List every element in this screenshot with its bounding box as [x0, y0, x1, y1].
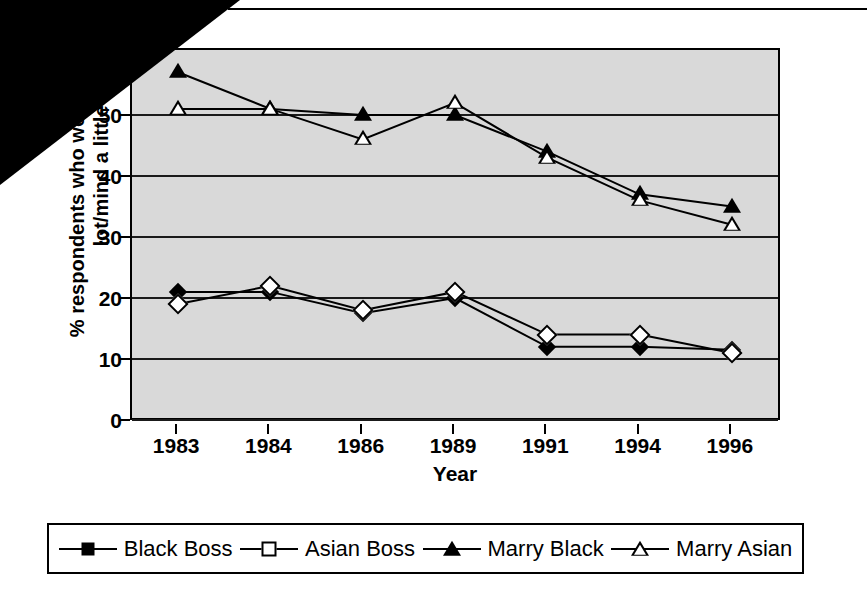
- legend-item-asian-boss[interactable]: Asian Boss: [240, 536, 415, 562]
- y-tick-mark-10: [119, 358, 130, 360]
- legend-item-marry-black[interactable]: Marry Black: [423, 536, 604, 562]
- filled-diamond-icon: [81, 542, 94, 555]
- gridline-0: [132, 419, 778, 421]
- data-point-hollow-triangle-icon-1991: [538, 148, 556, 163]
- data-point-hollow-triangle-icon-1994: [631, 191, 649, 206]
- data-point-hollow-triangle-icon-1989: [446, 93, 464, 108]
- x-tick-mark-1984: [267, 424, 269, 434]
- hollow-diamond-icon: [262, 541, 277, 556]
- x-tick-label-1983: 1983: [153, 434, 200, 458]
- chart-legend: Black BossAsian BossMarry BlackMarry Asi…: [47, 523, 804, 574]
- data-point-hollow-triangle-icon-1984: [261, 100, 279, 115]
- legend-swatch: [240, 539, 298, 559]
- legend-item-marry-asian[interactable]: Marry Asian: [611, 536, 792, 562]
- filled-triangle-icon: [443, 540, 461, 555]
- y-tick-mark-20: [119, 297, 130, 299]
- series-line-marry-black: [178, 72, 732, 206]
- data-point-hollow-triangle-icon-1986: [354, 130, 372, 145]
- x-tick-mark-1996: [729, 424, 731, 434]
- x-tick-mark-1991: [544, 424, 546, 434]
- data-point-filled-triangle-icon-1996: [723, 197, 741, 212]
- x-tick-label-1986: 1986: [337, 434, 384, 458]
- legend-swatch: [423, 539, 481, 559]
- hollow-triangle-icon: [631, 540, 649, 555]
- x-tick-mark-1989: [452, 424, 454, 434]
- legend-label: Marry Asian: [676, 536, 792, 562]
- x-axis-title: Year: [130, 462, 780, 486]
- legend-swatch: [611, 539, 669, 559]
- legend-swatch: [59, 539, 117, 559]
- series-line-marry-asian: [178, 103, 732, 225]
- line-chart-figure: % respondents who would mind a lot/mind …: [0, 0, 867, 607]
- x-tick-label-1991: 1991: [522, 434, 569, 458]
- x-tick-label-1996: 1996: [706, 434, 753, 458]
- y-tick-mark-40: [119, 175, 130, 177]
- legend-label: Marry Black: [488, 536, 604, 562]
- y-axis-tick-labels: 01020304050: [72, 48, 122, 420]
- x-tick-mark-1986: [360, 424, 362, 434]
- x-axis-tick-labels: 1983198419861989199119941996: [130, 428, 780, 462]
- y-tick-mark-0: [119, 419, 130, 421]
- x-tick-mark-1994: [637, 424, 639, 434]
- x-tick-label-1994: 1994: [614, 434, 661, 458]
- y-tick-mark-50: [119, 114, 130, 116]
- legend-label: Asian Boss: [305, 536, 415, 562]
- plot-area: [130, 48, 780, 420]
- data-point-hollow-triangle-icon-1983: [169, 100, 187, 115]
- legend-label: Black Boss: [124, 536, 233, 562]
- legend-item-black-boss[interactable]: Black Boss: [59, 536, 233, 562]
- y-tick-mark-30: [119, 236, 130, 238]
- data-point-filled-triangle-icon-1983: [169, 63, 187, 78]
- data-point-hollow-triangle-icon-1996: [723, 215, 741, 230]
- x-tick-label-1984: 1984: [245, 434, 292, 458]
- x-tick-mark-1983: [175, 424, 177, 434]
- plot-inner: [132, 50, 778, 418]
- x-tick-label-1989: 1989: [430, 434, 477, 458]
- data-point-filled-triangle-icon-1986: [354, 106, 372, 121]
